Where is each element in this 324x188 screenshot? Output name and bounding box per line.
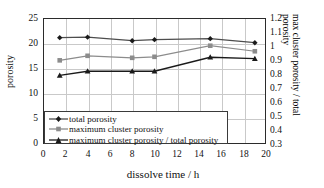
ytick-left-20: 20 [16, 38, 38, 48]
xtick-0: 0 [33, 149, 53, 159]
data-point [152, 55, 157, 60]
data-point [130, 56, 135, 61]
xtick-20: 20 [256, 149, 276, 159]
xtick-12: 12 [167, 149, 187, 159]
legend-marker-square-icon [48, 124, 69, 134]
x-axis-label: dissolve time / h [98, 168, 228, 180]
data-point [253, 49, 258, 54]
xtick-8: 8 [122, 149, 142, 159]
chart-figure: 25 20 15 10 5 0 1.2 1.1 1 0.9 0.8 0.7 0.… [0, 0, 324, 188]
ytick-left-15: 15 [16, 63, 38, 73]
xtick-2: 2 [55, 149, 75, 159]
y-axis-label-right: max cluster porosity / total porosity [283, 14, 301, 146]
data-point [152, 37, 157, 42]
series-2 [57, 43, 257, 62]
legend-marker-triangle-icon [48, 135, 69, 145]
legend-label-total-porosity: total porosity [69, 114, 117, 124]
legend-label-maximum-cluster-porosity: maximum cluster porosity [69, 124, 164, 134]
data-point [208, 43, 213, 48]
legend-marker-diamond-icon [48, 114, 69, 124]
data-point [85, 34, 90, 39]
legend-item-total-porosity: total porosity [48, 114, 224, 124]
xtick-16: 16 [211, 149, 231, 159]
data-point [130, 38, 135, 43]
ytick-left-5: 5 [16, 113, 38, 123]
legend: total porosity maximum cluster porosity … [44, 111, 228, 144]
y-axis-label-left: porosity [4, 42, 15, 102]
data-point [85, 54, 90, 59]
data-point [57, 58, 62, 63]
xtick-4: 4 [78, 149, 98, 159]
data-point [208, 36, 213, 41]
series-1 [57, 34, 258, 45]
ytick-left-10: 10 [16, 88, 38, 98]
legend-label-ratio: maximum cluster porosity / total porosit… [69, 135, 218, 145]
xtick-18: 18 [234, 149, 254, 159]
legend-item-ratio: maximum cluster porosity / total porosit… [48, 135, 224, 145]
y-axis-label-right-text: max cluster porosity / total porosity [283, 14, 301, 146]
xtick-14: 14 [189, 149, 209, 159]
data-point [252, 40, 257, 45]
xtick-10: 10 [145, 149, 165, 159]
data-point [57, 35, 62, 40]
ytick-left-25: 25 [16, 13, 38, 23]
xtick-6: 6 [100, 149, 120, 159]
legend-item-maximum-cluster-porosity: maximum cluster porosity [48, 124, 224, 134]
ytick-left-0: 0 [16, 138, 38, 148]
